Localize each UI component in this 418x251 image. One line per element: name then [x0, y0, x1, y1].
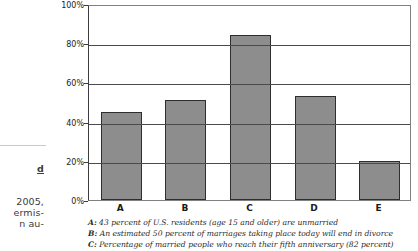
caption-key: A:: [88, 218, 97, 227]
y-axis-tick-mark: [84, 123, 88, 124]
caption-key: C:: [88, 240, 97, 249]
x-axis-tick-label-c: C: [230, 203, 270, 213]
bar-a: [101, 112, 142, 200]
gridline: [89, 163, 410, 164]
caption-text: Percentage of married people who reach t…: [97, 240, 394, 249]
y-axis-tick-label: 40%: [52, 118, 84, 127]
bar-c: [230, 35, 271, 200]
y-axis-tick-label: 60%: [52, 79, 84, 88]
y-axis-tick-mark: [84, 5, 88, 6]
x-axis-tick-label-e: E: [359, 203, 399, 213]
y-axis-tick-mark: [84, 83, 88, 84]
figure-caption: A: 43 percent of U.S. residents (age 15 …: [88, 217, 418, 250]
plot-area: [88, 5, 411, 201]
x-axis-tick-label-d: D: [294, 203, 334, 213]
gridline: [89, 84, 410, 85]
x-axis-tick-label-b: B: [165, 203, 205, 213]
y-axis-tick-mark: [84, 162, 88, 163]
caption-text: 43 percent of U.S. residents (age 15 and…: [97, 218, 338, 227]
caption-key: B:: [88, 229, 97, 238]
y-axis-tick-label: 80%: [52, 40, 84, 49]
gridline: [89, 124, 410, 125]
y-axis-tick-mark: [84, 201, 88, 202]
bar-series: [89, 6, 410, 200]
bar-e: [359, 161, 400, 200]
bar-b: [165, 100, 206, 200]
x-axis-tick-label-a: A: [100, 203, 140, 213]
caption-line: B: An estimated 50 percent of marriages …: [88, 228, 418, 239]
caption-text: An estimated 50 percent of marriages tak…: [97, 229, 393, 238]
y-axis-tick-mark: [84, 44, 88, 45]
caption-line: C: Percentage of married people who reac…: [88, 239, 418, 250]
y-axis-tick-label: 100%: [52, 1, 84, 10]
y-axis-tick-label: 20%: [52, 157, 84, 166]
bar-chart-figure: 0%20%40%60%80%100%ABCDE A: 43 percent of…: [0, 0, 418, 251]
caption-line: A: 43 percent of U.S. residents (age 15 …: [88, 217, 418, 228]
y-axis-tick-label: 0%: [52, 197, 84, 206]
bar-d: [295, 96, 336, 200]
gridline: [89, 45, 410, 46]
